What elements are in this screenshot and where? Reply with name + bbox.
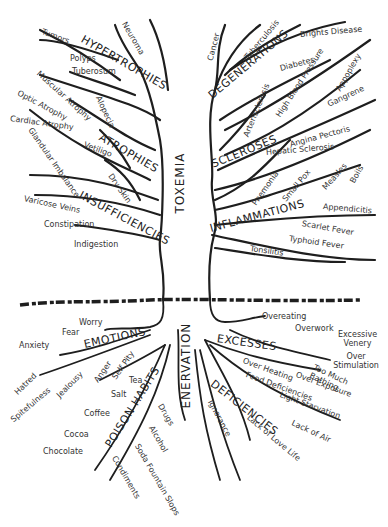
label-over-stimulation: Over Stimulation	[326, 352, 386, 370]
label-indigestion: Indigestion	[74, 240, 118, 249]
label-fear: Fear	[62, 328, 79, 337]
ground-line	[20, 299, 360, 305]
label-tuberosum: Tuberosum	[72, 67, 116, 76]
label-excessive-venery-1: Excessive Venery	[330, 330, 385, 348]
label-overeating: Overeating	[262, 312, 306, 321]
label-overwork: Overwork	[295, 324, 334, 333]
label-polyps: Polyps	[70, 54, 96, 63]
label-tea: Tea	[129, 376, 142, 385]
label-worry: Worry	[79, 318, 103, 327]
label-salt: Salt	[111, 390, 126, 399]
label-anxiety: Anxiety	[19, 341, 49, 350]
label-coffee: Coffee	[84, 409, 110, 418]
trunk-label-toxemia: TOXEMIA	[176, 153, 185, 214]
label-chocolate: Chocolate	[43, 447, 83, 456]
label-cocoa: Cocoa	[64, 430, 89, 439]
trunk-label-enervation: ENERVATION	[182, 323, 191, 409]
label-constipation: Constipation	[44, 220, 94, 229]
trunk-left	[140, 70, 164, 300]
